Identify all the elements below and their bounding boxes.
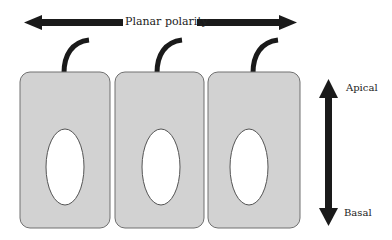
basal-label: Basal [344,207,372,218]
cells [20,72,300,228]
nucleus-1 [46,129,84,205]
diagram-canvas [0,0,392,240]
planar-polarity-label: Planar polarity [125,15,208,28]
cilium-3 [253,40,278,73]
cilium-1 [64,40,89,73]
planar-polarity-diagram: Planar polarity Apical Basal [0,0,392,240]
apical-basal-arrow [319,79,338,226]
nucleus-2 [142,129,180,205]
cilium-2 [157,40,182,73]
apical-label: Apical [346,82,378,93]
cilia [64,40,278,73]
nucleus-3 [230,129,268,205]
